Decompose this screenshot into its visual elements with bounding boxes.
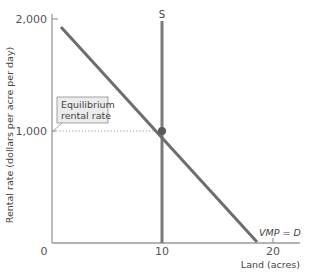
callout-line1: Equilibrium	[61, 99, 115, 110]
supply-label: S	[159, 9, 165, 20]
y-axis-title: Rental rate (dollars per acre per day)	[4, 47, 15, 223]
x-axis-title: Land (acres)	[241, 259, 300, 270]
chart: Equilibrium rental rate 2,000 1,000 0 10…	[0, 0, 310, 276]
demand-label: VMP = D	[259, 227, 301, 238]
x-tick-label-10: 10	[155, 245, 169, 258]
callout-line2: rental rate	[61, 110, 111, 121]
origin-label: 0	[41, 245, 48, 258]
equilibrium-point	[158, 127, 166, 135]
chart-svg: Equilibrium rental rate 2,000 1,000 0 10…	[0, 0, 310, 276]
callout-leader	[53, 123, 62, 131]
y-tick-label-2000: 2,000	[16, 13, 48, 26]
demand-line	[61, 27, 257, 242]
x-tick-label-20: 20	[266, 245, 280, 258]
y-tick-label-1000: 1,000	[16, 125, 48, 138]
